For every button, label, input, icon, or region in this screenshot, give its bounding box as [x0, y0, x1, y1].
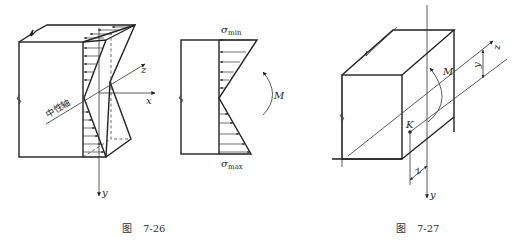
beam-front-face [19, 42, 83, 157]
z-axis-label: z [491, 44, 502, 51]
figure-7-26-side-view: σ min σ max M [179, 24, 285, 171]
section-side-rect [181, 40, 219, 154]
y-axis-label: y [101, 187, 108, 198]
neutral-axis-label: 中性轴 [43, 96, 72, 119]
side-stress-arrows-upper [220, 40, 254, 88]
figure-7-27-beam: y z y K z M [332, 5, 507, 200]
stress-arrows-lower [83, 112, 104, 152]
diagram-canvas: z x y 中性轴 σ [0, 0, 519, 250]
sigma-max-subscript: max [228, 163, 243, 171]
x-axis-label: x [146, 95, 152, 106]
hidden-edge-lines [111, 32, 131, 139]
moment-label: M [442, 66, 454, 77]
caption-7-26-prefix: 图 [122, 223, 132, 234]
moment-label: M [273, 90, 285, 101]
caption-7-26-number: 7-26 [143, 223, 165, 234]
caption-7-27-number: 7-27 [417, 223, 439, 234]
point-k-label: K [405, 119, 414, 130]
y-axis-label: y [429, 189, 436, 200]
caption-7-27-prefix: 图 [396, 223, 406, 234]
stress-prism-outline [83, 25, 135, 157]
moment-arc-arrow [428, 68, 442, 122]
z-axis-neutral-axis [46, 64, 145, 124]
figure-7-26-beam: z x y 中性轴 [17, 25, 155, 198]
y-dimension-label: y [471, 62, 482, 69]
moment-arc-arrow [263, 72, 273, 115]
side-stress-arrows-lower [219, 114, 250, 152]
stress-prism-front [83, 40, 106, 157]
z-axis-label: z [140, 64, 147, 75]
stress-distribution-triangles [219, 40, 257, 154]
beam-top-face [342, 30, 454, 75]
beam-front-face [342, 75, 402, 159]
sigma-min-subscript: min [228, 29, 242, 37]
